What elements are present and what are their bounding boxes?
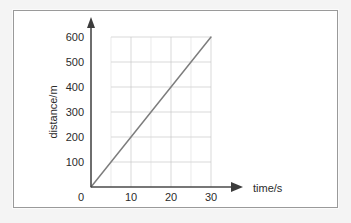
x-tick-label-10: 10 <box>125 191 137 203</box>
y-tick-label-200: 200 <box>66 131 84 143</box>
x-tick-label-30: 30 <box>205 191 217 203</box>
y-tick-label-600: 600 <box>66 31 84 43</box>
page-background: 600 500 400 300 200 100 0 10 20 30 dista… <box>0 0 351 223</box>
chart-canvas: 600 500 400 300 200 100 0 10 20 30 dista… <box>14 11 337 207</box>
x-axis-title: time/s <box>253 182 283 194</box>
figure-frame: 600 500 400 300 200 100 0 10 20 30 dista… <box>13 10 338 208</box>
y-tick-label-100: 100 <box>66 156 84 168</box>
x-tick-label-20: 20 <box>165 191 177 203</box>
y-axis-arrow-icon <box>87 17 95 28</box>
y-tick-label-400: 400 <box>66 81 84 93</box>
y-axis-title: distance/m <box>47 85 59 138</box>
y-tick-label-300: 300 <box>66 106 84 118</box>
distance-time-chart: 600 500 400 300 200 100 0 10 20 30 dista… <box>14 11 337 207</box>
y-tick-label-0: 0 <box>78 191 84 203</box>
x-axis-arrow-icon <box>231 182 243 192</box>
y-tick-label-500: 500 <box>66 56 84 68</box>
